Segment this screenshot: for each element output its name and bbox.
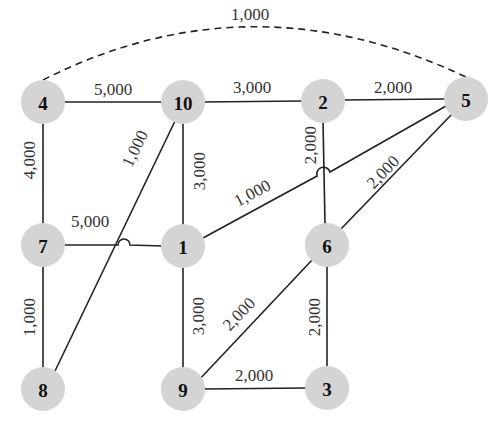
svg-text:8: 8 <box>38 380 48 401</box>
edge-label-10-8: 1,000 <box>118 127 152 170</box>
edge-label-1-5: 1,000 <box>231 176 274 211</box>
edge-label-9-3: 2,000 <box>235 366 273 385</box>
edge-4-5 <box>43 27 466 80</box>
node-8: 8 <box>21 367 65 411</box>
edge-label-6-3: 2,000 <box>305 298 324 336</box>
edge-label-9-6: 2,000 <box>219 294 259 335</box>
edge-label-4-10: 5,000 <box>94 80 132 99</box>
node-10: 10 <box>161 80 205 124</box>
node-3: 3 <box>305 366 349 410</box>
edge-label-1-9: 3,000 <box>189 297 208 335</box>
edge-9-6 <box>197 259 313 382</box>
node-4: 4 <box>21 80 65 124</box>
svg-text:2: 2 <box>318 92 328 113</box>
edge-label-7-1: 5,000 <box>71 212 109 231</box>
edge-label-10-1: 3,000 <box>190 152 209 190</box>
svg-text:4: 4 <box>38 93 48 114</box>
svg-text:9: 9 <box>178 380 188 401</box>
network-diagram: 1,000 5,000 3,000 2,000 4,000 1,000 3,00… <box>0 0 495 425</box>
edge-2-6 <box>323 121 325 225</box>
svg-text:10: 10 <box>174 93 193 114</box>
edge-label-4-7: 4,000 <box>20 141 39 179</box>
node-2: 2 <box>301 79 345 123</box>
edge-label-2-5: 2,000 <box>374 78 412 97</box>
node-9: 9 <box>161 367 205 411</box>
node-6: 6 <box>305 223 349 267</box>
svg-text:3: 3 <box>322 379 332 400</box>
node-7: 7 <box>21 223 65 267</box>
edge-label-10-2: 3,000 <box>233 78 271 97</box>
svg-text:5: 5 <box>461 90 471 111</box>
node-5: 5 <box>444 77 488 121</box>
edge-label-2-6: 2,000 <box>301 126 320 164</box>
edge-10-2 <box>203 101 303 102</box>
svg-text:7: 7 <box>38 236 48 257</box>
edge-label-4-5: 1,000 <box>231 5 269 24</box>
edge-9-3 <box>203 388 307 389</box>
edge-7-1 <box>63 239 163 246</box>
node-1: 1 <box>161 224 205 268</box>
svg-text:1: 1 <box>178 237 188 258</box>
edge-label-7-8: 1,000 <box>20 298 39 336</box>
edge-2-5 <box>343 99 446 100</box>
svg-text:6: 6 <box>322 236 332 257</box>
